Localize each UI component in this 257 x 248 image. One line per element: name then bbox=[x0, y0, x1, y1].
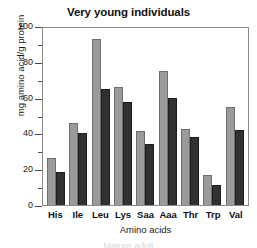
bar-group-his bbox=[45, 28, 67, 205]
x-axis-tick-label-aaa: Aaa bbox=[157, 209, 180, 223]
y-axis-tick-label: 40 bbox=[0, 129, 33, 138]
y-axis-minor-tick bbox=[38, 188, 42, 189]
y-axis-minor-tick bbox=[38, 81, 42, 82]
bar-trp-light-gray-series bbox=[203, 175, 212, 205]
chart-title: Very young individuals bbox=[0, 6, 257, 18]
y-axis-tick-label: 80 bbox=[0, 58, 33, 67]
y-axis-tick-labels: 100806040200 bbox=[0, 0, 33, 248]
x-axis-tick-label-leu: Leu bbox=[89, 209, 112, 223]
y-axis-major-tick bbox=[35, 134, 42, 135]
bar-lys-dark-gray-series bbox=[123, 102, 132, 205]
x-axis-label: Amino acids bbox=[42, 224, 249, 235]
y-axis-major-tick bbox=[35, 170, 42, 171]
bar-group-lys bbox=[112, 28, 134, 205]
x-axis-tick-labels: HisIleLeuLysSaaAaaThrTrpVal bbox=[42, 209, 249, 223]
clipped-caption-text: Mature adult bbox=[0, 241, 257, 248]
bar-lys-light-gray-series bbox=[114, 87, 123, 205]
bar-thr-dark-gray-series bbox=[190, 137, 199, 205]
x-axis-tick-label-trp: Trp bbox=[202, 209, 225, 223]
bar-leu-light-gray-series bbox=[92, 39, 101, 205]
bar-leu-dark-gray-series bbox=[101, 89, 110, 205]
bar-trp-dark-gray-series bbox=[212, 185, 221, 205]
bar-group-trp bbox=[201, 28, 223, 205]
y-axis-major-tick bbox=[35, 99, 42, 100]
bar-thr-light-gray-series bbox=[181, 129, 190, 205]
y-axis-tick-label: 20 bbox=[0, 165, 33, 174]
y-axis-major-tick bbox=[35, 206, 42, 207]
plot-area bbox=[42, 27, 249, 206]
x-axis-tick-label-lys: Lys bbox=[112, 209, 135, 223]
bar-chart-figure: Very young individuals mg amino acid/g p… bbox=[0, 0, 257, 248]
bar-val-dark-gray-series bbox=[235, 130, 244, 205]
bar-val-light-gray-series bbox=[226, 107, 235, 205]
x-axis-tick-label-thr: Thr bbox=[179, 209, 202, 223]
x-axis-tick-label-ile: Ile bbox=[67, 209, 90, 223]
x-axis-tick-label-saa: Saa bbox=[134, 209, 157, 223]
bar-saa-dark-gray-series bbox=[145, 144, 154, 205]
bar-ile-dark-gray-series bbox=[78, 133, 87, 205]
y-axis-major-tick bbox=[35, 63, 42, 64]
y-axis-tick-label: 60 bbox=[0, 94, 33, 103]
bar-his-dark-gray-series bbox=[56, 172, 65, 205]
bar-saa-light-gray-series bbox=[136, 131, 145, 205]
y-axis-tick-label: 100 bbox=[0, 22, 33, 31]
bar-group-leu bbox=[90, 28, 112, 205]
y-axis-minor-tick bbox=[38, 117, 42, 118]
bar-group-thr bbox=[179, 28, 201, 205]
bar-aaa-dark-gray-series bbox=[168, 98, 177, 205]
bar-group-val bbox=[224, 28, 246, 205]
y-axis-minor-tick bbox=[38, 152, 42, 153]
bar-aaa-light-gray-series bbox=[159, 71, 168, 205]
bar-group-aaa bbox=[157, 28, 179, 205]
x-axis-tick-label-val: Val bbox=[225, 209, 248, 223]
bar-group-ile bbox=[67, 28, 89, 205]
bars-layer bbox=[43, 28, 248, 205]
bar-ile-light-gray-series bbox=[69, 123, 78, 205]
y-axis-tick-label: 0 bbox=[0, 201, 33, 210]
bar-group-saa bbox=[134, 28, 156, 205]
bar-his-light-gray-series bbox=[47, 158, 56, 205]
y-axis-minor-tick bbox=[38, 45, 42, 46]
y-axis-major-tick bbox=[35, 27, 42, 28]
x-axis-tick-label-his: His bbox=[44, 209, 67, 223]
